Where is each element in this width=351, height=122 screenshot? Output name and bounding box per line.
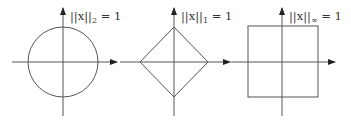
panel-l1-norm: ||x||1 = 1 — [120, 8, 232, 116]
panel-linf-norm: ||x||∞ = 1 — [231, 8, 342, 116]
lp-norm-diagram: ||x||2 = 1 ||x||1 = 1 ||x||∞ = 1 — [0, 0, 351, 122]
panel-l2-norm: ||x||2 = 1 — [12, 8, 121, 116]
linf-norm-label: ||x||∞ = 1 — [289, 9, 342, 25]
l1-norm-label: ||x||1 = 1 — [181, 9, 232, 25]
l2-norm-label: ||x||2 = 1 — [70, 9, 121, 25]
